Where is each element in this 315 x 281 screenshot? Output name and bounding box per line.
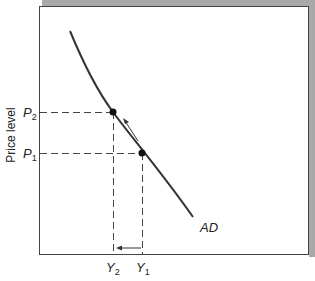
p1-label: P1 <box>23 146 37 163</box>
frame-shadow-right <box>309 0 315 257</box>
y2-label: Y2 <box>106 260 120 277</box>
ad-diagram: Price level P2 P1 Y2 Y1 AD <box>0 0 315 281</box>
plot-frame <box>40 7 309 255</box>
ad-label: AD <box>199 220 218 235</box>
point-p2-y2 <box>110 109 117 116</box>
y1-label: Y1 <box>136 260 150 277</box>
point-p1-y1 <box>139 150 146 157</box>
y-axis-label: Price level <box>4 107 18 162</box>
frame-shadow-top <box>42 0 315 6</box>
p2-label: P2 <box>23 105 37 122</box>
